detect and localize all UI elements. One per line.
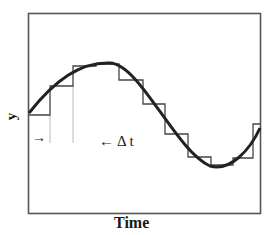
arrow-left-icon: ← [99,133,114,149]
x-axis-label: Time [114,214,149,232]
arrow-right-icon: → [32,130,46,146]
step-approximation-diagram [0,0,269,235]
plot-frame [29,14,261,214]
smooth-curve [29,63,260,167]
y-axis-label: y [3,113,20,121]
delta-t-label: ← Δ t [99,133,134,150]
delta-t-text: Δ t [117,133,134,149]
